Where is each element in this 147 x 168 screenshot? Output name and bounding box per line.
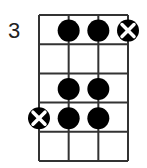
finger-dot [87,107,109,129]
finger-dot [87,20,109,42]
finger-dot [58,20,80,42]
fretboard-grid [0,0,147,168]
finger-dot [87,78,109,100]
finger-dot [58,107,80,129]
finger-dot [58,78,80,100]
